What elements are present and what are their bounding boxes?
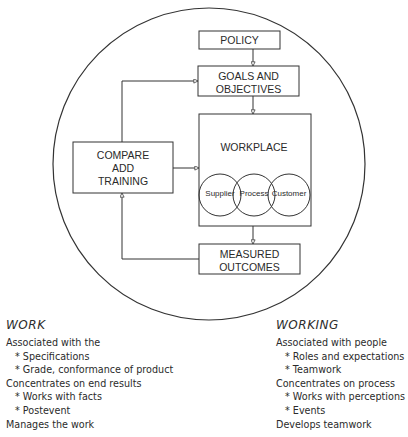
working-line: * Teamwork bbox=[276, 363, 405, 377]
arrow-measured-to-compare bbox=[122, 193, 199, 259]
measured-label-line2: OUTCOMES bbox=[219, 261, 280, 273]
compare-training-box: COMPARE ADD TRAINING bbox=[73, 142, 173, 193]
working-line: * Roles and expectations bbox=[276, 350, 405, 364]
goals-label-line1: GOALS AND bbox=[218, 70, 279, 82]
working-line: * Works with perceptions bbox=[276, 390, 405, 404]
compare-label-line3: TRAINING bbox=[98, 175, 148, 187]
work-line: * Works with facts bbox=[6, 390, 173, 404]
compare-label-line2: ADD bbox=[112, 162, 135, 174]
goals-objectives-box: GOALS AND OBJECTIVES bbox=[198, 66, 299, 96]
measured-label-line1: MEASURED bbox=[220, 248, 280, 260]
workplace-box: WORKPLACE Supplier Process Customer bbox=[199, 114, 311, 226]
supplier-label: Supplier bbox=[205, 189, 235, 198]
workplace-label: WORKPLACE bbox=[220, 141, 287, 153]
arrow-compare-to-goals bbox=[122, 81, 198, 142]
policy-label: POLICY bbox=[220, 34, 259, 46]
process-label: Process bbox=[240, 189, 269, 198]
customer-label: Customer bbox=[272, 189, 307, 198]
work-line: Concentrates on end results bbox=[6, 377, 173, 391]
compare-label-line1: COMPARE bbox=[97, 149, 149, 161]
work-line: * Postevent bbox=[6, 404, 173, 418]
measured-outcomes-box: MEASURED OUTCOMES bbox=[199, 244, 300, 274]
work-line: * Grade, conformance of product bbox=[6, 363, 173, 377]
working-column: WORKING Associated with people * Roles a… bbox=[276, 318, 405, 431]
work-column: WORK Associated with the * Specification… bbox=[6, 318, 173, 431]
policy-box: POLICY bbox=[199, 31, 280, 49]
work-line: * Specifications bbox=[6, 350, 173, 364]
working-line: Develops teamwork bbox=[276, 418, 405, 432]
work-line: Manages the work bbox=[6, 418, 173, 432]
work-line: Associated with the bbox=[6, 336, 173, 350]
working-line: * Events bbox=[276, 404, 405, 418]
work-process-diagram: POLICY GOALS AND OBJECTIVES WORKPLACE Su… bbox=[0, 0, 408, 325]
working-line: Associated with people bbox=[276, 336, 405, 350]
working-title: WORKING bbox=[276, 318, 405, 333]
working-line: Concentrates on process bbox=[276, 377, 405, 391]
goals-label-line2: OBJECTIVES bbox=[216, 83, 281, 95]
work-title: WORK bbox=[6, 318, 173, 333]
